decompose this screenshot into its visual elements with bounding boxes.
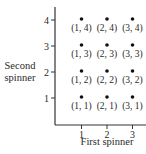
point-label: (1, 2) [71,75,92,86]
point-label: (1, 4) [71,23,92,34]
x-axis-label: First spinner [81,136,134,147]
point-label: (1, 3) [71,49,92,60]
point-label: (3, 4) [122,23,143,34]
y-axis-label-line2: spinner [5,72,36,83]
data-points: (1, 1)(2, 1)(3, 1)(1, 2)(2, 2)(3, 2)(1, … [71,17,143,112]
y-tick-label: 2 [44,67,49,78]
data-point [131,95,135,99]
data-point [105,43,109,47]
data-point [131,17,135,21]
data-point [105,69,109,73]
data-point [105,17,109,21]
y-tick-label: 1 [44,93,49,104]
data-point [131,43,135,47]
data-point [80,43,84,47]
point-label: (2, 3) [97,49,118,60]
point-label: (3, 1) [122,101,143,112]
y-tick-label: 4 [44,15,49,26]
point-label: (3, 2) [122,75,143,86]
data-point [105,95,109,99]
point-label: (1, 1) [71,101,92,112]
point-label: (2, 4) [97,23,118,34]
point-label: (3, 3) [122,49,143,60]
data-point [80,95,84,99]
data-point [80,17,84,21]
y-tick-label: 3 [44,41,49,52]
data-point [80,69,84,73]
point-label: (2, 2) [97,75,118,86]
data-point [131,69,135,73]
sample-space-chart: 1231234 (1, 1)(2, 1)(3, 1)(1, 2)(2, 2)(3… [0,0,146,154]
y-axis-label-line1: Second [5,60,37,71]
point-label: (2, 1) [97,101,118,112]
